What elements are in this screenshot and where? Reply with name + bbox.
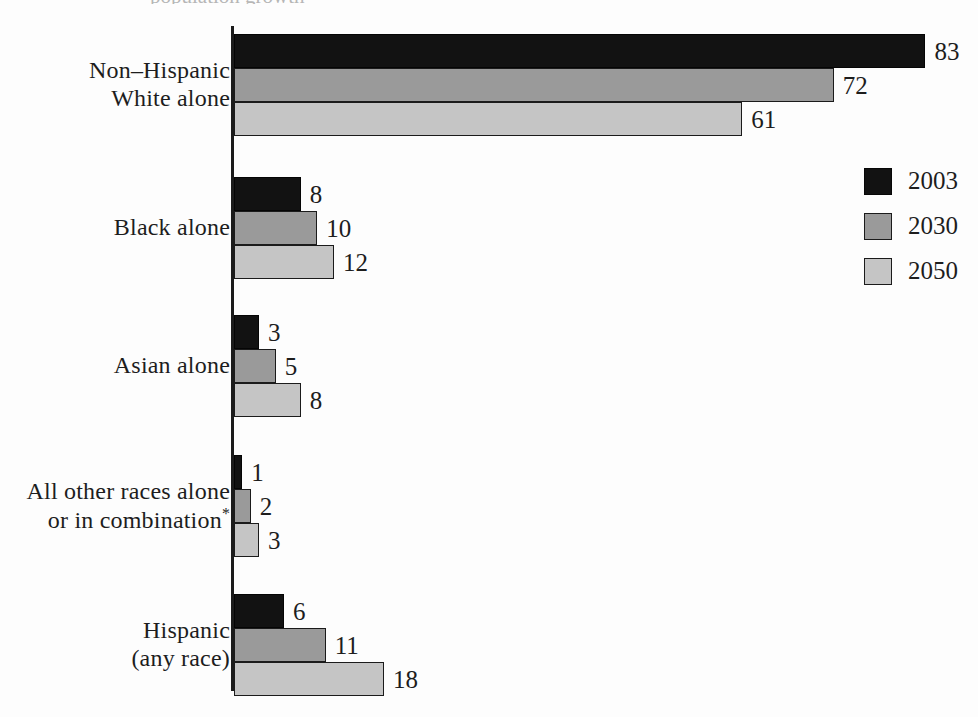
bar-value-label: 18: [393, 667, 418, 692]
bar-group: Black alone81012: [0, 177, 978, 279]
bar-chart: Non–HispanicWhite alone837261Black alone…: [0, 0, 978, 717]
bar-value-label: 12: [343, 250, 368, 275]
bar-row: 6: [234, 594, 974, 628]
bar-row: 10: [234, 211, 974, 245]
category-label: Black alone: [114, 213, 230, 241]
bar-value-label: 83: [934, 39, 959, 64]
bar-2030: [234, 628, 326, 662]
bar-2050: [234, 662, 384, 696]
bar-row: 3: [234, 315, 974, 349]
footnote-marker: *: [222, 505, 230, 522]
category-label: All other races aloneor in combination*: [27, 477, 230, 535]
legend-item: 2003: [864, 166, 976, 200]
legend-swatch-2050: [864, 258, 892, 285]
bar-value-label: 3: [268, 320, 281, 345]
bar-row: 8: [234, 177, 974, 211]
bar-2003: [234, 594, 284, 628]
bar-2050: [234, 102, 742, 136]
bar-group: Non–HispanicWhite alone837261: [0, 34, 978, 136]
bar-value-label: 72: [843, 73, 868, 98]
bar-2003: [234, 177, 301, 211]
bar-2050: [234, 523, 259, 557]
bar-2030: [234, 68, 834, 102]
legend-swatch-2030: [864, 213, 892, 240]
bar-value-label: 2: [260, 494, 273, 519]
bar-group: Hispanic(any race)61118: [0, 594, 978, 696]
bar-value-label: 8: [310, 388, 323, 413]
bar-row: 1: [234, 455, 974, 489]
bar-2030: [234, 349, 276, 383]
legend-swatch-2003: [864, 168, 892, 195]
category-label: Asian alone: [114, 351, 230, 379]
legend-item: 2050: [864, 256, 976, 290]
bar-row: 18: [234, 662, 974, 696]
legend-label: 2050: [908, 256, 958, 286]
bar-row: 72: [234, 68, 974, 102]
bar-value-label: 3: [268, 528, 281, 553]
bar-row: 3: [234, 523, 974, 557]
bar-2030: [234, 211, 317, 245]
bar-row: 61: [234, 102, 974, 136]
bar-2030: [234, 489, 251, 523]
bar-value-label: 1: [251, 460, 264, 485]
bar-group: All other races aloneor in combination*1…: [0, 455, 978, 557]
legend-label: 2003: [908, 166, 958, 196]
bar-value-label: 61: [751, 107, 776, 132]
chart-legend: 200320302050: [864, 166, 976, 301]
bar-value-label: 11: [335, 633, 359, 658]
legend-item: 2030: [864, 211, 976, 245]
bar-value-label: 5: [285, 354, 298, 379]
bar-value-label: 10: [326, 216, 351, 241]
bar-row: 11: [234, 628, 974, 662]
bar-row: 83: [234, 34, 974, 68]
bar-row: 5: [234, 349, 974, 383]
legend-label: 2030: [908, 211, 958, 241]
bar-row: 2: [234, 489, 974, 523]
bar-value-label: 8: [310, 182, 323, 207]
bar-2003: [234, 315, 259, 349]
bar-2003: [234, 34, 925, 68]
bar-row: 8: [234, 383, 974, 417]
bar-2050: [234, 245, 334, 279]
bar-group: Asian alone358: [0, 315, 978, 417]
category-label: Hispanic(any race): [131, 616, 230, 673]
bar-2050: [234, 383, 301, 417]
bar-value-label: 6: [293, 599, 306, 624]
bar-2003: [234, 455, 242, 489]
category-label: Non–HispanicWhite alone: [89, 56, 230, 113]
bar-row: 12: [234, 245, 974, 279]
